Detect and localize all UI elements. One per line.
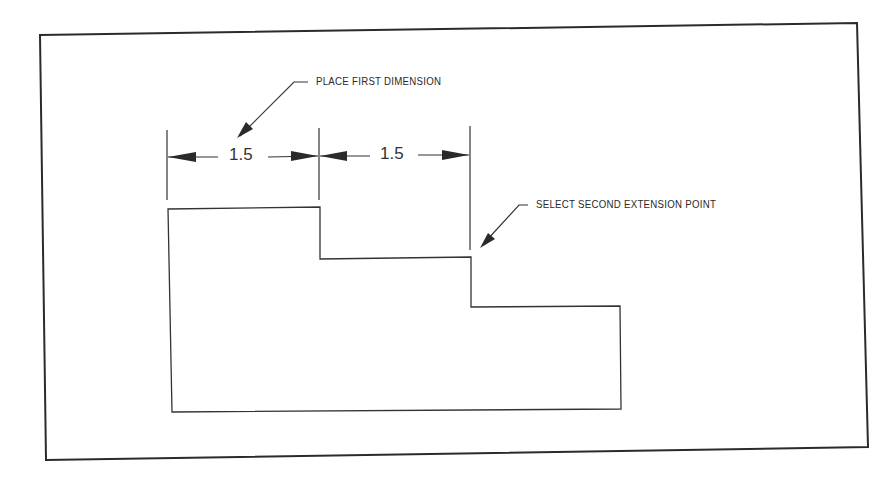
technical-drawing (0, 0, 895, 477)
leader-arrowhead-icon (480, 233, 495, 248)
arrowhead-icon (320, 151, 347, 161)
dimension-1-label: 1.5 (227, 145, 255, 165)
callout-select-second-extension-point: SELECT SECOND EXTENSION POINT (536, 198, 716, 210)
drawing-frame (40, 23, 868, 460)
arrowhead-icon (168, 152, 196, 162)
leader-arrowhead-icon (237, 122, 253, 138)
leader-place-first-dimension (237, 82, 308, 138)
arrowhead-icon (442, 150, 469, 160)
arrowhead-icon (291, 151, 318, 161)
dimension-2-label: 1.5 (378, 144, 406, 164)
callout-place-first-dimension: PLACE FIRST DIMENSION (316, 75, 441, 87)
stepped-profile-outline (168, 207, 621, 412)
leader-select-second-extension-point (480, 205, 528, 248)
